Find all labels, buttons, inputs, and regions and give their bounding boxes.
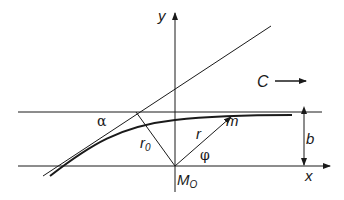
y-axis-label: y [157, 7, 167, 24]
alpha-label: α [97, 113, 107, 129]
slanted-asymptote [43, 26, 271, 176]
trajectory-diagram: y x C α r0 r φ m b MO [0, 0, 344, 200]
r0-label: r0 [140, 134, 151, 153]
r-label: r [196, 125, 202, 142]
origin-label: MO [177, 171, 198, 190]
b-label: b [306, 130, 314, 147]
phi-label: φ [200, 147, 210, 163]
trajectory-curve [50, 115, 292, 176]
velocity-label: C [257, 73, 269, 90]
x-axis-label: x [304, 167, 313, 184]
m-label: m [226, 112, 239, 129]
